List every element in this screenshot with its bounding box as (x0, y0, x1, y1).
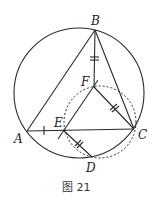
figure-caption: 图 21 (62, 181, 91, 194)
label-F: F (80, 75, 90, 89)
segment-AC (27, 129, 134, 131)
label-A: A (13, 132, 23, 146)
segment-BC (95, 30, 134, 129)
label-C: C (138, 128, 147, 142)
label-E: E (53, 116, 63, 130)
label-B: B (90, 14, 100, 28)
dashed-circle (64, 86, 136, 158)
label-D: D (85, 161, 96, 175)
circumcircle (14, 28, 144, 158)
geometry-diagram: A B C D E F 图 21 (0, 0, 154, 204)
segment-FC (94, 87, 134, 129)
segment-BF (94, 30, 95, 87)
